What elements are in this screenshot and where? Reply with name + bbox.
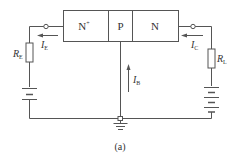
region-n: N xyxy=(151,20,159,32)
label-ie: IE xyxy=(40,39,48,51)
region-p: P xyxy=(117,20,123,32)
label-ic: IC xyxy=(190,39,198,51)
arrow-ie-icon xyxy=(37,34,58,38)
label-ib: IB xyxy=(132,74,140,86)
ground-icon xyxy=(114,121,128,130)
resistor-rl xyxy=(208,49,215,68)
arrow-ib-icon xyxy=(127,64,131,92)
emitter-terminal xyxy=(44,24,48,28)
transistor-circuit-diagram: N+ P N RE RL IE IC IB (a) xyxy=(0,0,239,161)
figure-caption: (a) xyxy=(114,141,125,153)
label-rl: RL xyxy=(216,53,227,65)
resistor-re xyxy=(26,43,33,62)
ground-node xyxy=(118,117,123,121)
battery-right xyxy=(204,88,219,113)
region-n-plus: N+ xyxy=(78,20,90,32)
collector-terminal xyxy=(191,24,195,28)
arrow-ic-icon xyxy=(181,34,203,38)
label-re: RE xyxy=(12,48,23,60)
battery-left xyxy=(22,89,37,100)
